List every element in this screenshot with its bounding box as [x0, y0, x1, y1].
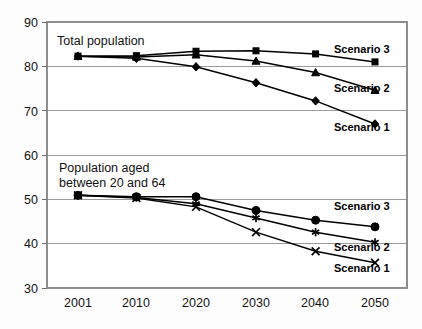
marker-circle — [312, 216, 320, 224]
ytick-label-50: 50 — [24, 193, 38, 207]
label-bottom-scenario-3: Scenario 3 — [334, 200, 390, 212]
xtick-label-2010: 2010 — [122, 296, 150, 310]
xtick-label-2030: 2030 — [242, 296, 270, 310]
label-bottom-scenario-2: Scenario 2 — [334, 241, 390, 253]
label-top-scenario-2: Scenario 2 — [334, 82, 390, 94]
xtick-label-2001: 2001 — [64, 296, 92, 310]
xtick-label-2020: 2020 — [182, 296, 210, 310]
bottom-panel-annotation-line2: between 20 and 64 — [59, 176, 165, 190]
ytick-label-30: 30 — [24, 282, 38, 296]
ytick-label-60: 60 — [24, 149, 38, 163]
ytick-label-90: 90 — [24, 16, 38, 30]
ytick-label-70: 70 — [24, 105, 38, 119]
y-axis-ticks — [42, 22, 47, 288]
x-axis-labels: 2001 2010 2020 2030 2040 2050 — [64, 296, 389, 310]
label-bottom-scenario-1: Scenario 1 — [334, 262, 390, 274]
marker-circle — [371, 223, 379, 231]
top-panel-annotation: Total population — [57, 34, 145, 48]
label-top-scenario-1: Scenario 1 — [334, 121, 390, 133]
y-axis-labels: 90 80 70 60 50 40 30 — [24, 16, 38, 296]
population-projection-chart: 90 80 70 60 50 40 30 2001 2010 2020 2030… — [0, 0, 422, 329]
bottom-panel-annotation-line1: Population aged — [59, 161, 149, 175]
chart-figure: 90 80 70 60 50 40 30 2001 2010 2020 2030… — [0, 0, 422, 329]
ytick-label-40: 40 — [24, 237, 38, 251]
marker-circle — [252, 206, 260, 214]
marker-square — [253, 48, 259, 54]
marker-circle — [192, 193, 200, 201]
marker-square — [313, 51, 319, 57]
label-top-scenario-3: Scenario 3 — [334, 43, 390, 55]
xtick-label-2040: 2040 — [301, 296, 329, 310]
marker-square — [372, 59, 378, 65]
ytick-label-80: 80 — [24, 60, 38, 74]
xtick-label-2050: 2050 — [361, 296, 389, 310]
